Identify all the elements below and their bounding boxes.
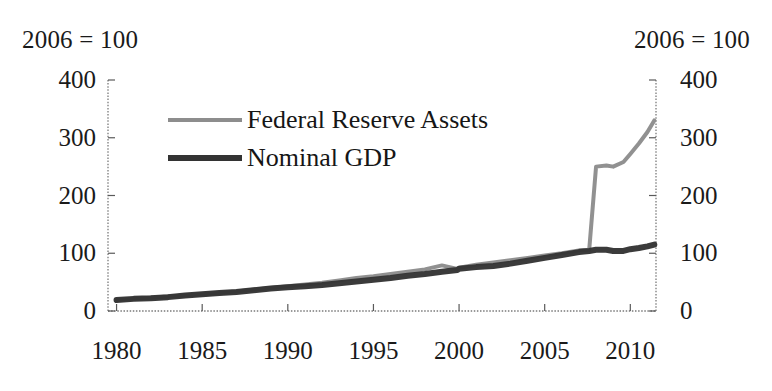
x-axis-tick-label: 2000	[434, 338, 484, 363]
x-axis-tick-label: 1995	[348, 338, 398, 363]
right-index-note: 2006 = 100	[634, 25, 750, 55]
y-axis-right-tick-label: 200	[680, 183, 718, 208]
y-axis-left-tick-label: 100	[59, 240, 97, 265]
legend-line-swatch-icon	[168, 118, 242, 122]
y-axis-left-tick-label: 200	[59, 183, 97, 208]
left-index-note: 2006 = 100	[22, 25, 138, 55]
y-axis-right-tick-label: 400	[680, 67, 718, 92]
legend-item-federal-reserve-assets[interactable]: Federal Reserve Assets	[168, 101, 588, 139]
y-axis-left-tick-label: 400	[59, 67, 97, 92]
y-axis-left-tick-label: 0	[84, 298, 97, 323]
y-axis-right-tick-label: 300	[680, 125, 718, 150]
y-axis-left-tick-label: 300	[59, 125, 97, 150]
legend-item-label: Federal Reserve Assets	[247, 106, 488, 134]
legend-item-nominal-gdp[interactable]: Nominal GDP	[168, 139, 588, 177]
legend-line-swatch-icon	[168, 155, 242, 161]
x-axis-tick-label: 2010	[605, 338, 655, 363]
chart-figure: 2006 = 100 2006 = 100 4003002001000 4003…	[0, 0, 772, 391]
x-axis-tick-label: 1985	[177, 338, 227, 363]
x-axis-tick-label: 1990	[263, 338, 313, 363]
legend-item-label: Nominal GDP	[247, 144, 397, 172]
x-axis-tick-label: 1980	[92, 338, 142, 363]
chart-legend: Federal Reserve AssetsNominal GDP	[168, 101, 588, 177]
x-axis-tick-label: 2005	[520, 338, 570, 363]
y-axis-right-tick-label: 0	[680, 298, 693, 323]
series-line-nominal-gdp	[117, 245, 655, 300]
y-axis-right-tick-label: 100	[680, 240, 718, 265]
